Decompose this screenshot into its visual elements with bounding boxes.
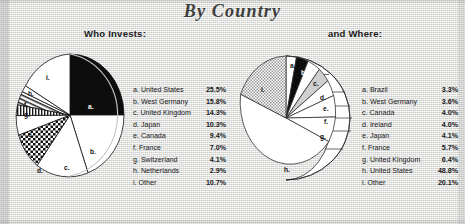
slice-label-d: d. [37, 167, 43, 174]
legend-key: a. United States [133, 87, 199, 94]
legend-row: i. Other20.1% [362, 180, 458, 192]
who-invests-pie-chart: a. b. c. d. e. f. g. h. i. [8, 48, 132, 178]
legend-value: 9.4% [199, 133, 226, 140]
legend-value: 48.8% [430, 168, 458, 175]
legend-key: e. Canada [133, 133, 199, 140]
legend-row: a. Brazil3.3% [362, 87, 458, 99]
legend-key: b. West Germany [133, 99, 199, 106]
left-chart-subtitle: Who Invests: [60, 28, 170, 39]
legend-row: f. France7.0% [133, 145, 226, 157]
slice-label-h: h. [28, 90, 34, 97]
slice-label-b: b. [90, 148, 96, 155]
legend-row: h. United States48.8% [362, 168, 458, 180]
legend-value: 14.3% [199, 110, 226, 117]
legend-row: f. France5.7% [362, 145, 458, 157]
legend-row: i. Other10.7% [133, 180, 226, 192]
slice-label-b: b. [301, 69, 307, 76]
slice-label-e: e. [323, 105, 329, 112]
pie-slices-right [240, 56, 336, 164]
slice-label-a: a. [88, 103, 94, 110]
legend-key: b. West Germany [362, 99, 430, 106]
slice-label-g: g. [320, 133, 326, 141]
legend-row: a. United States25.5% [133, 87, 226, 99]
pie-slices-left [16, 54, 124, 177]
legend-value: 2.9% [199, 168, 226, 175]
slice-label-e: e. [28, 131, 34, 138]
legend-key: h. United States [362, 168, 430, 175]
legend-value: 10.3% [199, 122, 226, 129]
legend-key: d. Japan [133, 122, 199, 129]
legend-value: 7.0% [199, 145, 226, 152]
page-title: By Country [0, 1, 465, 22]
legend-value: 4.1% [430, 133, 458, 140]
who-invests-legend: a. United States25.5% b. West Germany15.… [133, 87, 226, 191]
legend-key: e. Japan [362, 133, 430, 140]
slice-label-h: h. [284, 166, 290, 173]
right-gutter-shadow [458, 0, 465, 224]
slice-label-g: g. [24, 111, 30, 119]
legend-key: h. Netherlands [133, 168, 199, 175]
legend-value: 15.8% [199, 99, 226, 106]
legend-row: h. Netherlands2.9% [133, 168, 226, 180]
bottom-edge-shadow [0, 220, 465, 224]
right-chart-subtitle: and Where: [300, 28, 410, 39]
slice-label-c: c. [64, 164, 70, 171]
legend-key: f. France [133, 145, 199, 152]
legend-value: 3.3% [430, 87, 458, 94]
legend-value: 4.1% [199, 157, 226, 164]
legend-key: d. Ireland [362, 122, 430, 129]
slice-label-c: c. [313, 80, 319, 87]
legend-value: 10.7% [199, 180, 226, 187]
legend-value: 25.5% [199, 87, 226, 94]
legend-value: 5.7% [430, 145, 458, 152]
slice-label-f: f. [24, 101, 28, 108]
legend-value: 20.1% [430, 180, 458, 187]
legend-value: 4.0% [430, 122, 458, 129]
legend-key: f. France [362, 145, 430, 152]
and-where-legend: a. Brazil3.3% b. West Germany3.6% c. Can… [362, 87, 458, 191]
and-where-pie-chart: a. b. c. d. e. f. g. h. i. [228, 48, 360, 182]
legend-key: c. United Kingdom [133, 110, 199, 117]
slice-label-f: f. [324, 118, 328, 125]
legend-key: g. Switzerland [133, 157, 199, 164]
legend-key: i. Other [133, 180, 199, 187]
legend-key: g. United Kingdom [362, 157, 430, 164]
legend-key: c. Canada [362, 110, 430, 117]
slice-label-a: a. [290, 62, 296, 69]
legend-value: 3.6% [430, 99, 458, 106]
slice-a-united-states [70, 54, 124, 115]
slice-label-i: i. [46, 74, 50, 81]
legend-key: i. Other [362, 180, 430, 187]
legend-key: a. Brazil [362, 87, 430, 94]
slice-label-d: d. [320, 94, 326, 101]
slice-label-i: i. [261, 86, 265, 93]
legend-value: 4.0% [430, 110, 458, 117]
legend-value: 6.4% [430, 157, 458, 164]
